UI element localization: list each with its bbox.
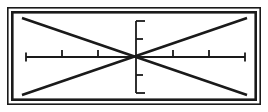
figure-container: Coordinate axis cross inside double-rule… xyxy=(0,0,268,112)
axis-cross-diagram: Coordinate axis cross inside double-rule… xyxy=(0,0,268,112)
